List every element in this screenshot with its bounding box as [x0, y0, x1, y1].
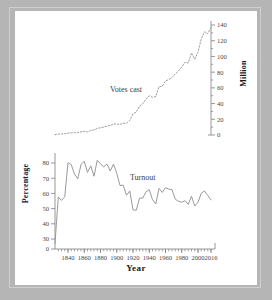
- x-axis-tick-label: 1920: [126, 254, 140, 261]
- x-axis-tick-label: 2016: [204, 254, 218, 261]
- x-axis-tick-label: 1980: [175, 254, 189, 261]
- x-axis-tick-label: 1860: [78, 254, 92, 261]
- left-axis-tick-label: 80: [42, 159, 49, 166]
- left-axis-tick-label: 60: [42, 190, 49, 197]
- right-axis-tick-label: 20: [217, 116, 224, 123]
- axes-group: 0204060801001201400304050607080184018601…: [42, 21, 227, 261]
- left-axis-tick-label: 30: [42, 235, 49, 242]
- chart-canvas: 0204060801001201400304050607080184018601…: [15, 11, 257, 285]
- left-axis-tick-label: 50: [42, 205, 49, 212]
- x-axis-tick-label: 1940: [143, 254, 157, 261]
- right-axis-tick-label: 140: [217, 21, 228, 28]
- left-axis-tick-label: 40: [42, 220, 49, 227]
- right-axis-tick-label: 0: [217, 131, 221, 138]
- x-axis-tick-label: 2000: [191, 254, 205, 261]
- right-y-axis-title: Million: [239, 44, 248, 104]
- series-group: [55, 28, 211, 244]
- right-axis-tick-label: 100: [217, 53, 228, 60]
- chart-plot-area: 0204060801001201400304050607080184018601…: [15, 11, 257, 285]
- x-axis-tick-label: 1900: [110, 254, 124, 261]
- series-line-votes-cast: [55, 28, 211, 135]
- left-axis-tick-label: 70: [42, 175, 49, 182]
- right-axis-tick-label: 80: [217, 69, 224, 76]
- series-label-votes-cast: Votes cast: [110, 85, 142, 94]
- x-axis-tick-label: 1840: [61, 254, 75, 261]
- figure-frame: 0204060801001201400304050607080184018601…: [0, 0, 272, 300]
- left-y-axis-title: Percentage: [21, 154, 30, 214]
- x-axis-tick-label: 1880: [94, 254, 108, 261]
- right-axis-tick-label: 40: [217, 100, 224, 107]
- x-axis-title: Year: [15, 263, 257, 273]
- series-label-turnout: Turnout: [130, 173, 156, 182]
- right-axis-tick-label: 60: [217, 84, 224, 91]
- left-axis-tick-label: 0: [46, 245, 50, 252]
- x-axis-tick-label: 1960: [159, 254, 173, 261]
- right-axis-tick-label: 120: [217, 37, 228, 44]
